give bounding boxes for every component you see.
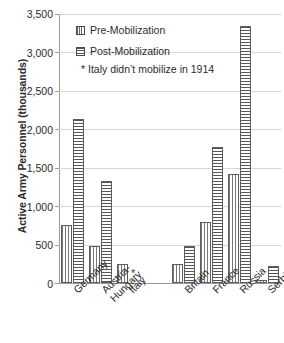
bar [73,119,84,283]
legend-footnote: * Italy didn’t mobilize in 1914 [81,64,214,75]
bar [172,264,183,283]
y-tick-label: 1,000 [7,202,53,212]
y-tick-label: 2,500 [7,86,53,96]
legend-item-post-mobilization: Post-Mobilization [76,43,214,60]
y-tick-label: 3,000 [7,48,53,58]
chart-legend: Pre-Mobilization Post-Mobilization * Ita… [76,22,214,75]
y-tick-label: 500 [7,240,53,250]
y-axis-tick-labels: 3,500 3,000 2,500 2,000 1,500 1,000 500 … [7,14,53,284]
y-tick-label: 0 [7,279,53,289]
y-tick-label: 3,500 [7,9,53,19]
bar [61,225,72,283]
legend-label: Pre-Mobilization [90,25,165,36]
horizontal-stripes-swatch-icon [76,47,85,56]
legend-label: Post-Mobilization [90,46,170,57]
bar [240,26,251,283]
vertical-stripes-swatch-icon [76,26,85,35]
bar-chart: Active Army Personnel (thousands) 3,500 … [0,0,284,343]
bar-group [226,14,254,283]
y-tick-label: 1,500 [7,163,53,173]
x-axis-category-labels: GermanyAustria-HungaryItalyBritainFrance… [59,283,281,343]
y-tick-label: 2,000 [7,125,53,135]
bar-group [253,14,281,283]
legend-item-pre-mobilization: Pre-Mobilization [76,22,214,39]
bar [212,147,223,283]
